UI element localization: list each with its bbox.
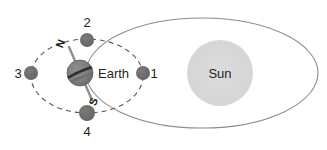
moon-position-3-dot	[24, 66, 38, 80]
moon-position-1-label: 1	[150, 66, 157, 81]
sun-label: Sun	[208, 66, 231, 81]
moon-position-4-label: 4	[83, 124, 90, 139]
moon-position-1-dot	[136, 66, 150, 80]
moon-position-4-dot	[79, 105, 95, 121]
earth-label: Earth	[98, 66, 129, 81]
moon-position-2-label: 2	[83, 15, 90, 30]
diagram-svg: Sun N S Earth 1 2 3 4	[0, 0, 327, 150]
moon-position-2-dot	[80, 33, 94, 47]
moon-position-3-label: 3	[14, 66, 21, 81]
earth-north-pole-label: N	[53, 38, 67, 50]
orbital-diagram-canvas: Sun N S Earth 1 2 3 4	[0, 0, 327, 150]
